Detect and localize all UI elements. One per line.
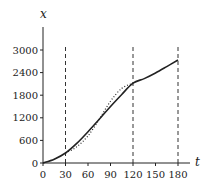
solid-curve [43, 60, 178, 163]
y-tick-label: 2400 [13, 67, 38, 78]
x-axis: 0306090120150180 [40, 163, 190, 180]
y-axis-label: x [40, 7, 47, 21]
y-tick-label: 1200 [13, 112, 38, 123]
line-chart: 06001200180024003000 0306090120150180 x … [0, 0, 208, 189]
y-tick-label: 3000 [13, 45, 38, 56]
x-tick-label: 60 [82, 169, 95, 180]
y-tick-label: 600 [19, 135, 38, 146]
x-tick-label: 90 [104, 169, 117, 180]
y-tick-label: 1800 [13, 90, 38, 101]
y-tick-label: 0 [32, 158, 38, 169]
y-axis: 06001200180024003000 [13, 27, 43, 169]
x-axis-label: t [195, 155, 200, 169]
x-tick-label: 30 [59, 169, 72, 180]
x-tick-label: 180 [168, 169, 187, 180]
vertical-dashed-lines [66, 47, 179, 163]
x-tick-label: 120 [123, 169, 142, 180]
x-tick-label: 150 [146, 169, 165, 180]
x-tick-label: 0 [40, 169, 46, 180]
